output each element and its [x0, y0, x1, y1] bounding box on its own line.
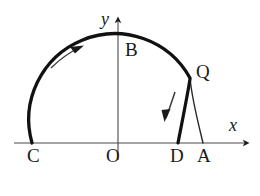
point-label-q: Q — [196, 62, 210, 81]
x-axis-label: x — [229, 116, 237, 134]
segment-q-d — [178, 79, 190, 143]
arc-small-thin — [190, 78, 203, 143]
y-axis-label: y — [101, 10, 109, 28]
point-label-o: O — [106, 146, 120, 165]
figure-canvas — [0, 0, 260, 196]
point-label-d: D — [170, 146, 184, 165]
point-label-a: A — [197, 146, 211, 165]
arrow-down-head — [162, 109, 171, 122]
arc-main-thick — [29, 34, 190, 143]
geometry-figure: C O D A B Q x y — [0, 0, 260, 196]
point-label-b: B — [125, 40, 138, 59]
point-label-c: C — [27, 146, 40, 165]
